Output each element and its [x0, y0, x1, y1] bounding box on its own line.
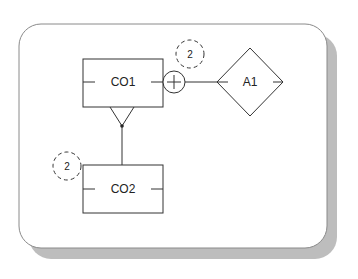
entity-co1-label: CO1: [111, 75, 136, 89]
badge-top-label: 2: [187, 49, 193, 60]
badge-left-label: 2: [64, 161, 70, 172]
diagram-frame: [19, 24, 327, 248]
relationship-a1-label: A1: [243, 75, 258, 89]
entity-co1[interactable]: CO1: [83, 59, 163, 107]
entity-co2-label: CO2: [111, 182, 136, 196]
cardinality-badge-left: 2: [53, 152, 81, 180]
entity-co2[interactable]: CO2: [83, 165, 163, 213]
diagram-canvas: CO1 A1 2 CO2 2: [0, 0, 358, 279]
plus-circle-icon: [163, 71, 185, 93]
